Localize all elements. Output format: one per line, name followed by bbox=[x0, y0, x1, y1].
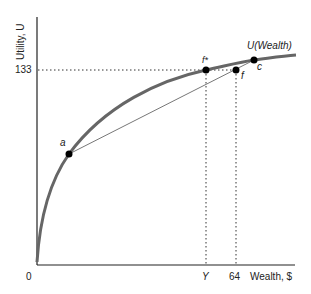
curve-label: U(Wealth) bbox=[247, 40, 292, 51]
point-a bbox=[66, 151, 73, 158]
origin-label: 0 bbox=[26, 271, 32, 282]
point-f bbox=[233, 67, 240, 74]
y-tick-133: 133 bbox=[15, 64, 32, 75]
y-axis-label: Utility, U bbox=[15, 24, 26, 60]
label-f: f bbox=[241, 70, 244, 81]
label-a: a bbox=[60, 137, 66, 148]
chord-line bbox=[69, 60, 254, 154]
point-fstar bbox=[203, 67, 210, 74]
label-c: c bbox=[257, 61, 262, 72]
utility-curve bbox=[37, 55, 296, 262]
x-axis-label: Wealth, $ bbox=[250, 271, 292, 282]
x-tick-Y: Y bbox=[202, 271, 209, 282]
x-tick-64: 64 bbox=[229, 271, 240, 282]
curve-label-text: U(Wealth) bbox=[247, 40, 292, 51]
label-fstar: f* bbox=[202, 55, 208, 65]
